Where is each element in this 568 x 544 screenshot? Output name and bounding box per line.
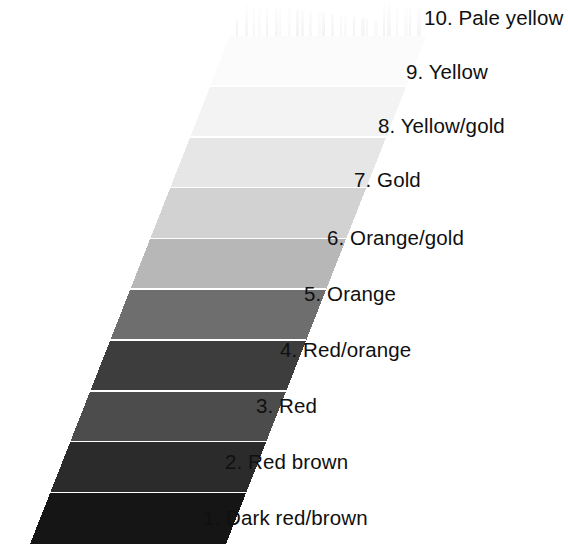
band-label-9: 9. Yellow xyxy=(406,62,488,83)
band-label-6: 6. Orange/gold xyxy=(327,228,464,249)
feather-fade-mask xyxy=(220,0,440,34)
band-label-1: 1. Dark red/brown xyxy=(203,508,368,529)
colour-band-3 xyxy=(70,392,286,443)
band-label-2: 2. Red brown xyxy=(225,452,348,473)
band-label-5: 5. Orange xyxy=(304,284,396,305)
band-label-8: 8. Yellow/gold xyxy=(378,116,505,137)
band-label-10: 10. Pale yellow xyxy=(424,8,563,29)
colour-band-9 xyxy=(190,87,406,138)
band-label-3: 3. Red xyxy=(256,396,317,417)
band-label-7: 7. Gold xyxy=(354,170,421,191)
colour-band-10 xyxy=(210,36,426,87)
band-label-4: 4. Red/orange xyxy=(280,340,411,361)
colour-scale-figure: 10. Pale yellow9. Yellow8. Yellow/gold7.… xyxy=(0,0,568,544)
colour-band-5 xyxy=(110,290,326,341)
top-feather-texture xyxy=(220,0,440,36)
colour-band-4 xyxy=(90,341,306,392)
